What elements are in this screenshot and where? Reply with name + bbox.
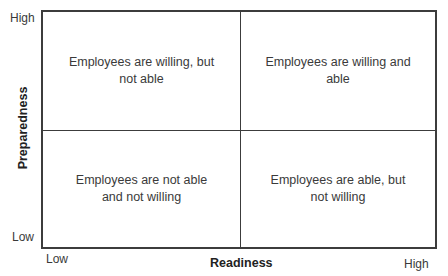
quadrant-bottom-right: Employees are able, but not willing bbox=[241, 131, 435, 247]
quadrant-bottom-left: Employees are not able and not willing bbox=[43, 131, 240, 247]
x-axis-title: Readiness bbox=[210, 256, 273, 270]
x-axis-low-label: Low bbox=[46, 252, 68, 266]
quadrant-top-left-label: Employees are willing, but not able bbox=[67, 54, 217, 88]
quadrant-top-left: Employees are willing, but not able bbox=[43, 12, 240, 130]
quadrant-bottom-left-label: Employees are not able and not willing bbox=[67, 172, 217, 206]
readiness-preparedness-matrix: Employees are willing, but not able Empl… bbox=[41, 10, 437, 249]
quadrant-top-right: Employees are willing and able bbox=[241, 12, 435, 130]
y-axis-title: Preparedness bbox=[16, 87, 30, 170]
x-axis-high-label: High bbox=[404, 257, 429, 271]
y-axis-low-label: Low bbox=[12, 230, 34, 244]
y-axis-high-label: High bbox=[10, 11, 35, 25]
quadrant-top-right-label: Employees are willing and able bbox=[263, 54, 413, 88]
quadrant-bottom-right-label: Employees are able, but not willing bbox=[263, 172, 413, 206]
